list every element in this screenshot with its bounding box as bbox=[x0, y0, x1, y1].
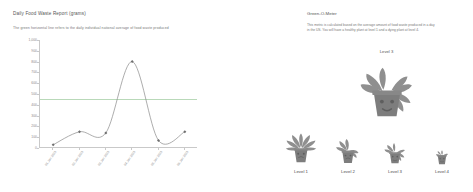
plant-level-scale: Level 1 Level 2 Level 3 bbox=[268, 124, 470, 174]
x-axis-tick-mark bbox=[131, 148, 132, 150]
y-axis-tick-mark bbox=[37, 105, 39, 106]
green-o-meter-title: Green-O-Meter bbox=[307, 11, 337, 16]
current-plant-illustration bbox=[350, 59, 424, 125]
y-axis-tick-label: 400 bbox=[13, 103, 37, 107]
data-point-marker[interactable] bbox=[52, 143, 55, 146]
data-point-marker[interactable] bbox=[183, 130, 186, 133]
y-axis-tick-label: 500 bbox=[13, 92, 37, 96]
x-axis-tick-mark bbox=[52, 148, 53, 150]
y-axis-tick-mark bbox=[37, 83, 39, 84]
x-axis-tick-label: 06 Jan 2023 bbox=[176, 150, 189, 167]
plant-healthy-icon bbox=[281, 130, 321, 168]
y-axis-tick-label: 700 bbox=[13, 70, 37, 74]
plant-level-label: Level 1 bbox=[278, 169, 324, 174]
chart-plot-area bbox=[39, 40, 197, 148]
y-axis-tick-label: 200 bbox=[13, 124, 37, 128]
page-title: Daily Food Waste Report (grams) bbox=[13, 11, 86, 16]
y-axis-tick-mark bbox=[37, 51, 39, 52]
x-axis-tick-mark bbox=[184, 148, 185, 150]
plant-illustration bbox=[372, 124, 418, 168]
plant-level-item[interactable]: Level 1 bbox=[278, 124, 324, 174]
x-axis-tick-mark bbox=[158, 148, 159, 150]
plant-level-item[interactable]: Level 2 bbox=[325, 124, 371, 174]
x-axis-tick-label: 05 Jan 2023 bbox=[149, 150, 162, 167]
data-point-marker[interactable] bbox=[131, 60, 134, 63]
plant-level-label: Level 2 bbox=[325, 169, 371, 174]
y-axis-tick-mark bbox=[37, 126, 39, 127]
series-line bbox=[53, 62, 185, 145]
x-axis-tick-mark bbox=[105, 148, 106, 150]
y-axis-tick-mark bbox=[37, 137, 39, 138]
plant-illustration bbox=[419, 124, 465, 168]
plant-level-label: Level 3 bbox=[372, 169, 418, 174]
x-axis: 01 Jan 202302 Jan 202303 Jan 202304 Jan … bbox=[39, 150, 197, 190]
y-axis-tick-mark bbox=[37, 62, 39, 63]
y-axis-tick-mark bbox=[37, 40, 39, 41]
green-o-meter-description: This metric is calculated based on the a… bbox=[307, 23, 435, 32]
x-axis-tick-label: 02 Jan 2023 bbox=[70, 150, 83, 167]
plant-level-item[interactable]: Level 3 bbox=[372, 124, 418, 174]
chart-series-line bbox=[40, 40, 198, 148]
y-axis-tick-label: 800 bbox=[13, 60, 37, 64]
report-subtitle: The green horizontal line refers to the … bbox=[13, 26, 169, 30]
data-point-marker[interactable] bbox=[78, 130, 81, 133]
green-o-meter-panel: Green-O-Meter This metric is calculated … bbox=[300, 0, 473, 192]
y-axis-tick-mark bbox=[37, 72, 39, 73]
y-axis-tick-label: 300 bbox=[13, 114, 37, 118]
plant-level-label: Level 4 bbox=[419, 169, 465, 174]
plant-illustration bbox=[278, 124, 324, 168]
y-axis-tick-label: 0 bbox=[13, 146, 37, 150]
x-axis-tick-label: 04 Jan 2023 bbox=[123, 150, 136, 167]
y-axis-tick-mark bbox=[37, 116, 39, 117]
plant-slightly-wilted-icon bbox=[330, 135, 365, 168]
wilted-plant-icon bbox=[350, 59, 424, 125]
plant-dying-icon bbox=[429, 143, 455, 168]
y-axis-tick-mark bbox=[37, 94, 39, 95]
line-chart: 01002003004005006007008009001,000 01 Jan… bbox=[13, 38, 198, 153]
y-axis-tick-mark bbox=[37, 148, 39, 149]
y-axis-tick-label: 600 bbox=[13, 81, 37, 85]
x-axis-tick-label: 03 Jan 2023 bbox=[97, 150, 110, 167]
y-axis-tick-label: 1,000 bbox=[13, 38, 37, 42]
plant-illustration bbox=[325, 124, 371, 168]
y-axis-tick-label: 900 bbox=[13, 49, 37, 53]
dashboard-root: Daily Food Waste Report (grams) The gree… bbox=[0, 0, 473, 192]
current-level-label: Level 3 bbox=[300, 49, 473, 54]
plant-level-item[interactable]: Level 4 bbox=[419, 124, 465, 174]
plant-wilted-icon bbox=[379, 138, 411, 168]
y-axis-tick-label: 100 bbox=[13, 135, 37, 139]
x-axis-tick-mark bbox=[79, 148, 80, 150]
food-waste-report-panel: Daily Food Waste Report (grams) The gree… bbox=[0, 0, 205, 192]
x-axis-tick-label: 01 Jan 2023 bbox=[44, 150, 57, 167]
